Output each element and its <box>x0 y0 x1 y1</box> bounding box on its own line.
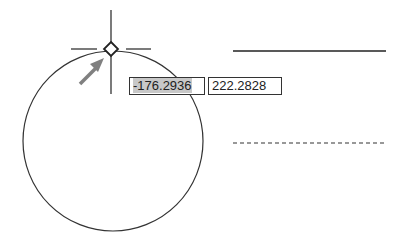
quadrant-snap-marker-icon <box>104 42 118 56</box>
y-coordinate-input[interactable]: 222.2828 <box>208 77 282 95</box>
x-coordinate-value: -176.2936 <box>133 78 192 93</box>
pointer-arrow-icon <box>80 58 104 84</box>
drawing-canvas[interactable] <box>0 0 410 251</box>
x-coordinate-input[interactable]: -176.2936 <box>129 77 205 95</box>
y-coordinate-value: 222.2828 <box>212 78 266 93</box>
